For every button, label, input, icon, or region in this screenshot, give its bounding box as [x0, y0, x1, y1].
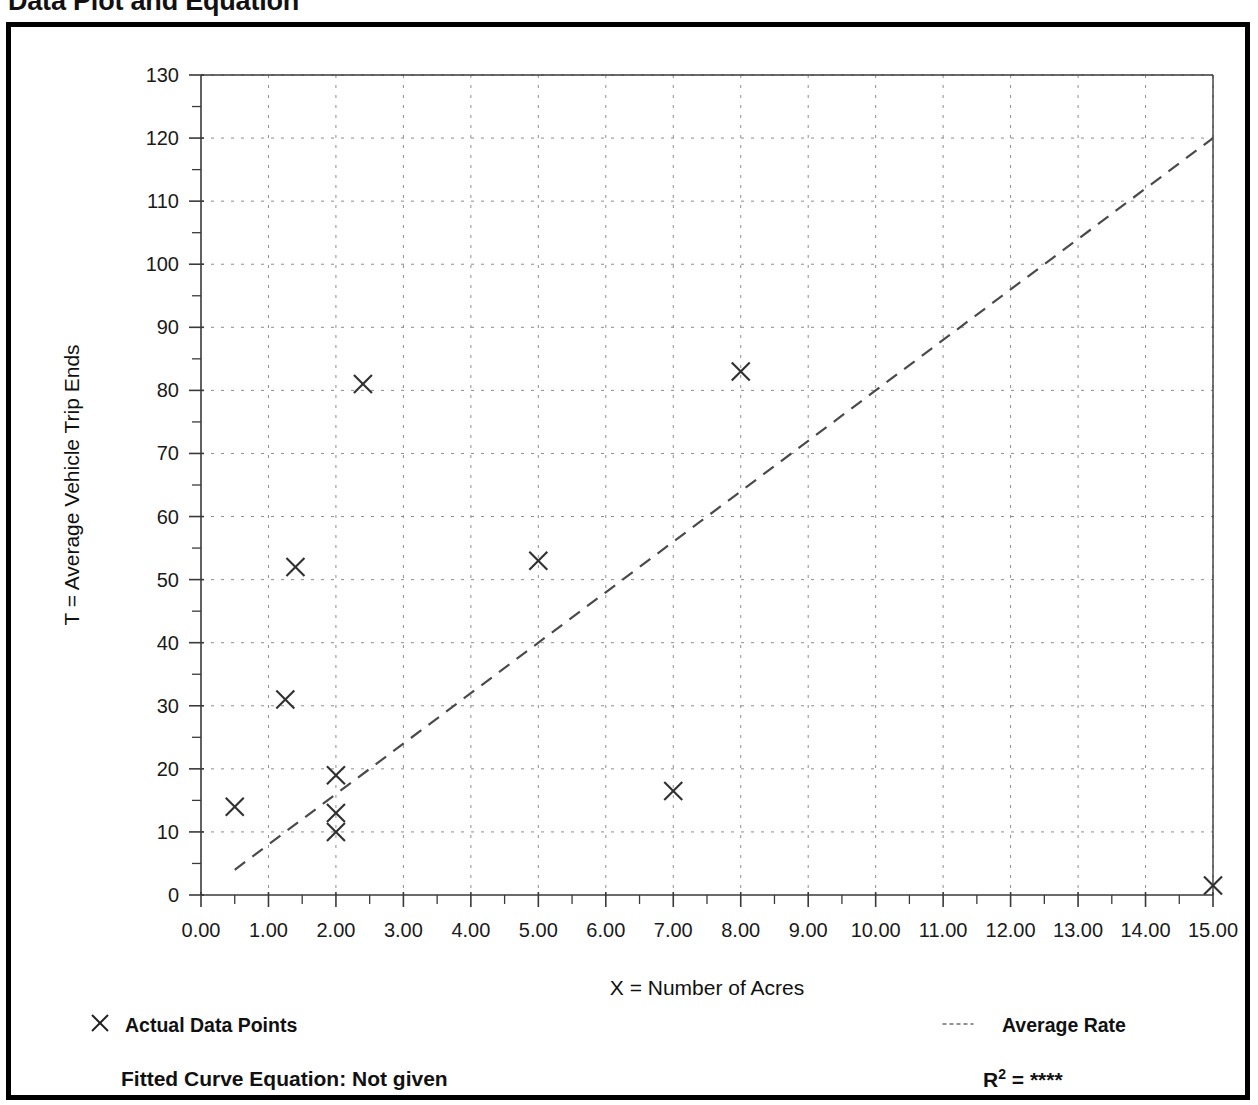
legend-label-average-rate: Average Rate: [1002, 1014, 1126, 1037]
x-marker-icon: [89, 1012, 111, 1034]
svg-text:100: 100: [146, 253, 179, 275]
svg-text:2.00: 2.00: [316, 919, 355, 941]
svg-text:9.00: 9.00: [789, 919, 828, 941]
r2-number: = ****: [1012, 1068, 1063, 1091]
svg-text:20: 20: [157, 758, 179, 780]
svg-text:130: 130: [146, 64, 179, 86]
svg-text:5.00: 5.00: [519, 919, 558, 941]
svg-text:110: 110: [147, 190, 179, 212]
svg-text:0: 0: [168, 884, 179, 906]
svg-text:120: 120: [146, 127, 179, 149]
data-point-marker: [226, 798, 244, 816]
x-axis-tick-labels: 0.001.002.003.004.005.006.007.008.009.00…: [182, 919, 1239, 941]
figure-frame: 0102030405060708090100110120130 0.001.00…: [6, 22, 1250, 1100]
svg-text:70: 70: [157, 442, 179, 464]
svg-text:90: 90: [157, 316, 179, 338]
svg-text:30: 30: [157, 695, 179, 717]
svg-text:80: 80: [157, 379, 179, 401]
data-point-marker: [276, 690, 294, 708]
data-point-marker: [327, 766, 345, 784]
svg-text:0.00: 0.00: [182, 919, 221, 941]
svg-text:10: 10: [157, 821, 179, 843]
svg-text:7.00: 7.00: [654, 919, 693, 941]
axis-lines: [201, 75, 1213, 895]
svg-text:11.00: 11.00: [919, 919, 968, 941]
svg-text:40: 40: [157, 632, 179, 654]
x-axis-title: X = Number of Acres: [610, 976, 804, 999]
data-points: [226, 362, 1222, 894]
r-squared-value: R2 = ****: [983, 1066, 1063, 1092]
data-point-marker: [286, 558, 304, 576]
page-title: Data Plot and Equation: [8, 0, 299, 17]
svg-text:10.00: 10.00: [851, 919, 901, 941]
svg-text:15.00: 15.00: [1188, 919, 1238, 941]
y-axis-title: T = Average Vehicle Trip Ends: [60, 344, 83, 625]
chart-plot-area: 0102030405060708090100110120130 0.001.00…: [11, 27, 1255, 1105]
svg-text:14.00: 14.00: [1121, 919, 1171, 941]
svg-text:4.00: 4.00: [451, 919, 490, 941]
svg-text:60: 60: [157, 506, 179, 528]
svg-text:13.00: 13.00: [1053, 919, 1103, 941]
svg-text:12.00: 12.00: [986, 919, 1036, 941]
r2-prefix: R: [983, 1068, 998, 1091]
svg-text:3.00: 3.00: [384, 919, 423, 941]
r2-exponent: 2: [998, 1066, 1006, 1082]
legend-label-actual-data-points: Actual Data Points: [125, 1014, 297, 1037]
svg-text:1.00: 1.00: [249, 919, 288, 941]
y-axis-tick-labels: 0102030405060708090100110120130: [146, 64, 179, 906]
fitted-curve-equation: Fitted Curve Equation: Not given: [121, 1067, 448, 1091]
scatter-chart: 0102030405060708090100110120130 0.001.00…: [11, 27, 1255, 1105]
svg-text:6.00: 6.00: [586, 919, 625, 941]
svg-text:8.00: 8.00: [721, 919, 760, 941]
svg-text:50: 50: [157, 569, 179, 591]
average-rate-line: [235, 138, 1213, 870]
dashed-line-icon: [927, 1023, 989, 1025]
grid-lines: [201, 75, 1213, 895]
